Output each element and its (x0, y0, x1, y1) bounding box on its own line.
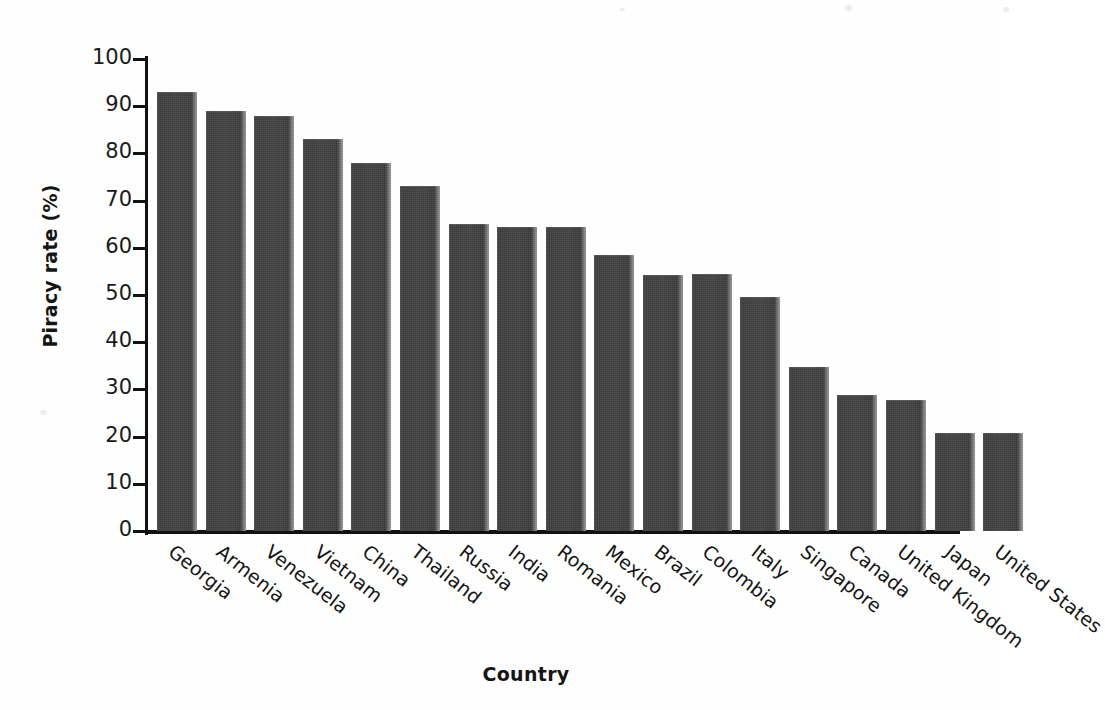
y-axis-tick-label: 30 (76, 377, 132, 398)
bar-brazil (643, 275, 683, 531)
x-axis-title: Country (0, 663, 997, 685)
bar-venezuela (254, 116, 294, 531)
y-axis-tick-80 (133, 152, 147, 155)
bar-japan (935, 433, 975, 531)
bar-romania (546, 227, 586, 531)
bar-colombia (692, 274, 732, 531)
bar-armenia (206, 111, 246, 531)
bar-singapore (789, 367, 829, 531)
bar-india (497, 227, 537, 531)
scan-speckle (845, 5, 852, 11)
y-axis-tick-labels: 1009080706050403020100 (14, 0, 132, 600)
y-axis-tick-label: 50 (76, 283, 132, 304)
plot-area (147, 59, 958, 532)
bar-italy (740, 297, 780, 531)
y-axis-tick-40 (133, 341, 147, 344)
y-axis-tick-label: 40 (76, 330, 132, 351)
bar-canada (837, 395, 877, 531)
y-axis-tick-10 (133, 483, 147, 486)
y-axis-tick-60 (133, 247, 147, 250)
y-axis-tick-label: 60 (76, 236, 132, 257)
bar-thailand (400, 186, 440, 531)
y-axis-tick-20 (133, 436, 147, 439)
bar-vietnam (303, 139, 343, 531)
bar-georgia (157, 92, 197, 531)
scan-speckle (1003, 7, 1009, 12)
bar-united-states (983, 433, 1023, 531)
y-axis-tick-label: 80 (76, 141, 132, 162)
y-axis-tick-label: 70 (76, 189, 132, 210)
y-axis-tick-label: 0 (76, 519, 132, 540)
y-axis-tick-100 (133, 58, 147, 61)
bar-china (351, 163, 391, 531)
y-axis-tick-70 (133, 200, 147, 203)
y-axis-tick-label: 10 (76, 472, 132, 493)
y-axis-tick-label: 90 (76, 94, 132, 115)
y-axis-tick-label: 20 (76, 425, 132, 446)
bar-united-kingdom (886, 400, 926, 531)
y-axis-tick-0 (133, 530, 147, 533)
y-axis-tick-30 (133, 388, 147, 391)
bar-mexico (594, 255, 634, 531)
y-axis-tick-90 (133, 105, 147, 108)
y-axis-tick-50 (133, 294, 147, 297)
y-axis-tick-label: 100 (76, 47, 132, 68)
bar-russia (449, 224, 489, 531)
scan-speckle (620, 8, 625, 11)
